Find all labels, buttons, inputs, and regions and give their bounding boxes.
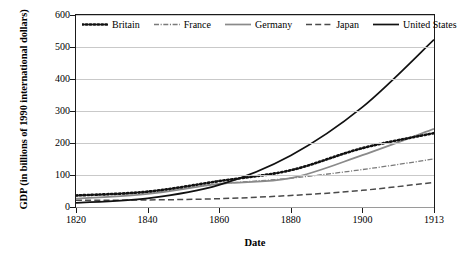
plot-area <box>75 14 435 208</box>
gridline <box>76 79 434 80</box>
legend-label: Japan <box>336 19 359 30</box>
gridline <box>76 175 434 176</box>
x-axis-title: Date <box>75 237 435 248</box>
legend-label: Germany <box>255 19 292 30</box>
legend-swatch-icon <box>82 20 108 29</box>
legend-swatch-icon <box>225 20 251 29</box>
x-tick-mark <box>219 208 220 213</box>
x-tick-label: 1820 <box>46 214 106 225</box>
x-tick-mark <box>362 208 363 213</box>
y-axis-title: GDP (in billions of 1990 international d… <box>18 5 29 215</box>
legend-item-united-states[interactable]: United States <box>373 19 457 30</box>
x-tick-mark <box>434 208 435 213</box>
legend-item-germany[interactable]: Germany <box>225 19 292 30</box>
gridline <box>76 15 434 16</box>
y-tick-label: 400 <box>30 74 70 84</box>
legend-label: France <box>184 19 211 30</box>
gridline <box>76 111 434 112</box>
legend-label: Britain <box>112 19 140 30</box>
x-tick-mark <box>148 208 149 213</box>
series-line-united-states <box>76 40 434 203</box>
legend-item-japan[interactable]: Japan <box>306 19 359 30</box>
gridline <box>76 207 434 208</box>
y-tick-label: 500 <box>30 42 70 52</box>
y-tick-label: 600 <box>30 10 70 20</box>
x-tick-label: 1913 <box>404 214 461 225</box>
series-line-japan <box>76 182 434 200</box>
x-tick-mark <box>291 208 292 213</box>
x-tick-label: 1880 <box>261 214 321 225</box>
chart-legend: BritainFranceGermanyJapanUnited States <box>82 19 457 30</box>
x-tick-label: 1900 <box>332 214 392 225</box>
legend-swatch-icon <box>154 20 180 29</box>
y-tick-label: 100 <box>30 170 70 180</box>
legend-label: United States <box>403 19 457 30</box>
y-tick-label: 0 <box>30 202 70 212</box>
gridline <box>76 47 434 48</box>
y-tick-label: 200 <box>30 138 70 148</box>
gridline <box>76 143 434 144</box>
legend-swatch-icon <box>373 20 399 29</box>
legend-swatch-icon <box>306 20 332 29</box>
y-tick-label: 300 <box>30 106 70 116</box>
legend-item-britain[interactable]: Britain <box>82 19 140 30</box>
legend-item-france[interactable]: France <box>154 19 211 30</box>
x-tick-mark <box>76 208 77 213</box>
x-tick-label: 1860 <box>189 214 249 225</box>
x-tick-label: 1840 <box>118 214 178 225</box>
